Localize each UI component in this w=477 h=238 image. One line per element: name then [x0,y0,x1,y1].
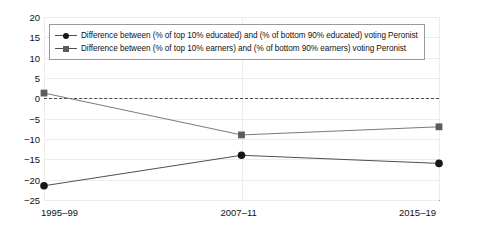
data-point[interactable] [41,90,48,97]
legend-item-earners[interactable]: Difference between (% of top 10% earners… [55,42,418,55]
data-point[interactable] [435,160,443,168]
data-point[interactable] [238,151,246,159]
gridline-horizontal [44,200,439,201]
series-line-earners [44,93,439,135]
y-tick-label: −5 [4,113,40,124]
legend-item-educated[interactable]: Difference between (% of top 10% educate… [55,29,418,42]
y-tick-label: 5 [4,73,40,84]
y-tick-label: 15 [4,32,40,43]
y-tick-label: 10 [4,52,40,63]
series-line-educated [44,155,439,186]
y-tick-label: 20 [4,12,40,23]
chart-legend: Difference between (% of top 10% educate… [49,24,425,60]
y-tick-label: −20 [4,174,40,185]
y-tick-label: −15 [4,154,40,165]
gridline-vertical [439,17,440,200]
data-point[interactable] [40,182,48,190]
legend-marker-square-icon [55,43,77,54]
legend-label-earners: Difference between (% of top 10% earners… [81,44,406,53]
data-point[interactable] [436,123,443,130]
x-tick-label: 2015–19 [399,207,436,218]
line-chart: 20151050−5−10−15−20−25 1995–992007–11201… [0,0,477,238]
y-tick-label: 0 [4,93,40,104]
legend-label-educated: Difference between (% of top 10% educate… [81,31,418,40]
y-tick-label: −25 [4,195,40,206]
y-tick-label: −10 [4,134,40,145]
x-tick-label: 1995–99 [41,207,78,218]
x-tick-label: 2007–11 [221,207,257,218]
data-point[interactable] [238,132,245,139]
legend-marker-circle-icon [55,30,77,41]
